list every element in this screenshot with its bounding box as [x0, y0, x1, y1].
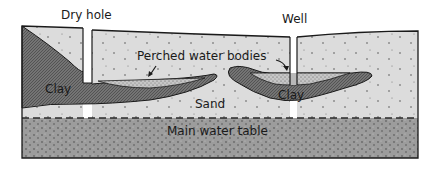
label-sand: Sand: [195, 97, 225, 111]
label-dry-hole: Dry hole: [61, 8, 112, 22]
dry-hole-shaft: [83, 26, 92, 83]
label-main-water-table: Main water table: [167, 124, 268, 138]
label-clay-left: Clay: [45, 82, 71, 96]
label-perched-water-bodies: Perched water bodies: [137, 49, 266, 63]
label-well: Well: [282, 12, 307, 26]
label-clay-right: Clay: [278, 88, 304, 102]
cross-section-diagram: Dry hole Well Perched water bodies Clay …: [0, 0, 438, 170]
